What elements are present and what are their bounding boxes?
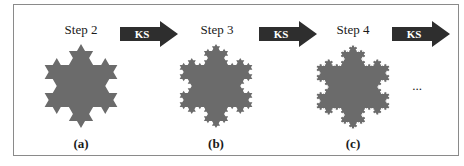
step-4-title: Step 4 <box>313 22 393 38</box>
ks-arrow-3: KS <box>392 21 450 47</box>
step-3-title: Step 3 <box>177 22 257 38</box>
step-2-title: Step 2 <box>41 22 121 38</box>
panel-label-b: (b) <box>196 136 236 152</box>
panel-label-c: (c) <box>333 136 373 152</box>
koch-snowflake-step-2 <box>37 42 125 130</box>
ks-arrow-label: KS <box>120 21 164 47</box>
koch-snowflake-step-4 <box>309 43 397 131</box>
ks-arrow-label: KS <box>392 21 436 47</box>
ks-arrow-label: KS <box>259 21 303 47</box>
ks-arrow-1: KS <box>120 21 178 47</box>
continuation-ellipsis: ... <box>405 78 429 94</box>
panel-label-a: (a) <box>61 136 101 152</box>
koch-snowflake-step-3 <box>172 42 260 130</box>
